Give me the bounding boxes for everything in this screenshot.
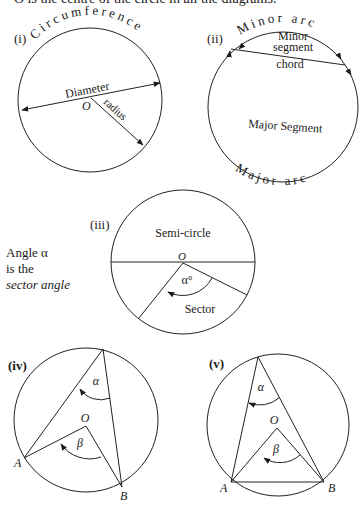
- major-segment-label: Major Segment: [248, 116, 324, 135]
- major-arc-label: Major arc: [233, 160, 310, 188]
- beta-label-iv: β: [76, 436, 83, 450]
- point-a-iv: A: [13, 456, 22, 470]
- circumference-label: Circumference: [26, 3, 147, 42]
- centre-label-iii: O: [178, 250, 186, 262]
- diagram-v: (v) α O β A B: [207, 354, 349, 496]
- diagram-ii: (ii) Minor arc Minor segment chord Major…: [207, 10, 358, 188]
- side-note-line1: Angle α: [6, 245, 48, 261]
- alpha-label-iv: α: [93, 374, 100, 388]
- semi-circle-label: Semi-circle: [155, 226, 210, 240]
- diagram-i: (i) Circumference Diameter O radius: [14, 3, 162, 172]
- diagram-iii: (iii) Semi-circle O α° Sector: [90, 190, 255, 334]
- centre-label-iv: O: [81, 411, 90, 425]
- side-note-line2: is the: [6, 261, 34, 277]
- point-a-v: A: [219, 481, 228, 495]
- minor-segment-label-2: segment: [273, 40, 314, 54]
- sector-label: Sector: [185, 302, 216, 316]
- label-v: (v): [209, 356, 224, 371]
- label-iii: (iii): [90, 217, 110, 232]
- diagram-iv: (iv) α O β A B: [8, 348, 158, 503]
- point-b-iv: B: [120, 489, 128, 503]
- point-b-v: B: [328, 481, 336, 495]
- alpha-label-v: α: [258, 380, 265, 394]
- side-note-line3: sector angle: [6, 277, 70, 293]
- geometry-diagrams: (i) Circumference Diameter O radius (ii)…: [0, 0, 361, 513]
- centre-label: O: [82, 99, 91, 113]
- label-i: (i): [14, 31, 26, 46]
- beta-label-v: β: [272, 442, 279, 456]
- centre-label-v: O: [270, 413, 279, 427]
- chord-label: chord: [276, 57, 303, 71]
- radius-label: radius: [102, 96, 130, 123]
- angle-alpha-label: α°: [181, 273, 192, 287]
- label-ii: (ii): [207, 31, 223, 46]
- label-iv: (iv): [8, 358, 27, 373]
